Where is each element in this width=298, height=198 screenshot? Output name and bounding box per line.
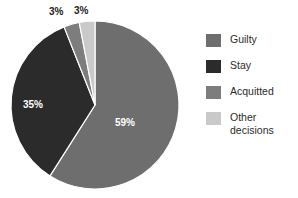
legend-item-other-decisions[interactable]: Other decisions xyxy=(206,111,298,137)
chart-legend: Guilty Stay Acquitted Other decisions xyxy=(206,33,298,193)
legend-swatch-acquitted xyxy=(206,86,221,99)
slice-value-acquitted: 3% xyxy=(49,7,63,17)
legend-item-acquitted[interactable]: Acquitted xyxy=(206,85,298,99)
slice-value-other: 3% xyxy=(74,6,88,16)
slice-value-guilty: 59% xyxy=(115,118,135,128)
legend-item-stay[interactable]: Stay xyxy=(206,59,298,73)
pie-plot-area: 59% 35% 3% 3% xyxy=(0,0,195,198)
legend-label-guilty: Guilty xyxy=(230,33,257,46)
legend-swatch-guilty xyxy=(206,34,221,47)
legend-swatch-stay xyxy=(206,60,221,73)
legend-label-stay: Stay xyxy=(230,59,251,72)
legend-swatch-other-decisions xyxy=(206,112,221,125)
legend-label-acquitted: Acquitted xyxy=(230,85,274,98)
pie-chart: 59% 35% 3% 3% Guilty Stay Acquitted Othe… xyxy=(0,0,298,198)
slice-value-stay: 35% xyxy=(23,100,43,110)
legend-item-guilty[interactable]: Guilty xyxy=(206,33,298,47)
legend-label-other-decisions: Other decisions xyxy=(230,111,274,137)
